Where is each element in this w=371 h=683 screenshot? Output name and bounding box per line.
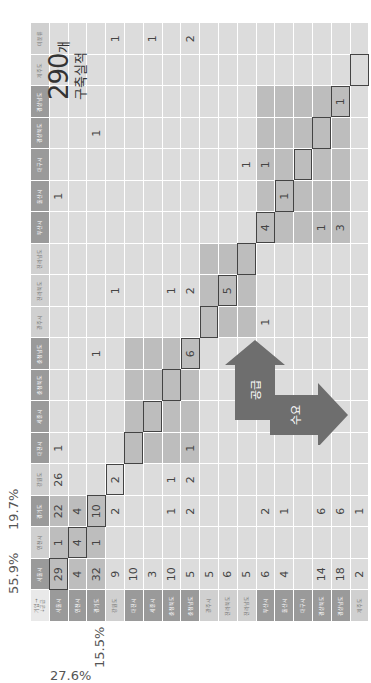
matrix-cell [181,527,200,559]
matrix-cell [350,275,369,307]
matrix-cell [350,212,369,244]
matrix-cell [162,370,181,402]
matrix-cell [87,275,106,307]
matrix-cell [331,527,350,559]
matrix-cell: 4 [68,559,87,591]
matrix-cell [143,275,162,307]
table-row: 충청북도10111 [162,23,181,622]
matrix-cell: 1 [49,433,68,465]
matrix-cell [200,212,219,244]
table-row: 부산시62141 [256,23,275,622]
matrix-cell: 1 [106,23,125,55]
matrix-cell [275,464,294,496]
matrix-cell [312,338,331,370]
matrix-cell: 6 [256,559,275,591]
table-row: 대전시10 [124,23,143,622]
matrix-cell [87,86,106,118]
matrix-cell [106,181,125,213]
table-row: 강원도92211 [106,23,125,622]
matrix-cell [143,370,162,402]
matrix-cell [143,401,162,433]
table-row: 전라남도51 [237,23,256,622]
matrix-cell [162,527,181,559]
matrix-cell [162,23,181,55]
matrix-cell [200,118,219,150]
matrix-cell [143,433,162,465]
matrix-cell [200,433,219,465]
demand-header-6: 충청북도 [31,370,50,402]
matrix-cell: 1 [87,527,106,559]
matrix-cell [162,86,181,118]
matrix-cell [237,55,256,87]
matrix-cell [350,149,369,181]
corner-line-2: ↓공급 [40,591,46,622]
matrix-cell [200,464,219,496]
matrix-cell [350,370,369,402]
supply-header-10: 전라남도 [237,590,256,622]
matrix-cell [218,433,237,465]
matrix-cell [200,181,219,213]
matrix-cell [49,149,68,181]
matrix-cell [68,275,87,307]
matrix-cell: 1 [237,149,256,181]
matrix-cell [49,275,68,307]
demand-header-9: 전라북도 [31,275,50,307]
supply-header-4: 대전시 [124,590,143,622]
matrix-cell [237,464,256,496]
matrix-cell [106,212,125,244]
matrix-cell [237,212,256,244]
matrix-cell [312,527,331,559]
supply-header-7: 충청남도 [181,590,200,622]
matrix-cell [294,86,313,118]
matrix-cell [294,212,313,244]
header-row: 기업→↓공급서울시인천시경기도강원도대전시세종시충청북도충청남도광주시전라북도전… [31,23,50,622]
matrix-cell [218,181,237,213]
matrix-cell [143,55,162,87]
matrix-cell [331,307,350,339]
matrix-cell [331,464,350,496]
matrix-cell [143,464,162,496]
matrix-cell [106,370,125,402]
table-row: 경상북도1461 [312,23,331,622]
matrix-cell [350,527,369,559]
supply-header-11: 부산시 [256,590,275,622]
matrix-cell [218,23,237,55]
matrix-cell [275,55,294,87]
matrix-cell [68,212,87,244]
matrix-cell [181,181,200,213]
matrix-cell [124,464,143,496]
matrix-cell [312,86,331,118]
matrix-cell [87,307,106,339]
demand-header-2: 경기도 [31,496,50,528]
matrix-cell [181,244,200,276]
table-row: 인천시444 [68,23,87,622]
matrix-cell [218,86,237,118]
matrix-cell [256,244,275,276]
matrix-cell [106,338,125,370]
table-row: 경기도3211011 [87,23,106,622]
matrix-cell [87,23,106,55]
supply-header-5: 세종시 [143,590,162,622]
matrix-cell [294,118,313,150]
matrix-cell [331,275,350,307]
matrix-cell: 1 [331,86,350,118]
total-label: 구축실적 [70,41,89,100]
demand-header-11: 부산시 [31,212,50,244]
matrix-cell [237,244,256,276]
demand-header-8: 광주시 [31,307,50,339]
demand-header-12: 울산시 [31,181,50,213]
matrix-cell: 18 [331,559,350,591]
matrix-cell [312,23,331,55]
matrix-cell [87,244,106,276]
matrix-cell [294,23,313,55]
arrow-down-icon [270,383,348,445]
matrix-cell [312,55,331,87]
matrix-cell [49,338,68,370]
matrix-cell [68,118,87,150]
matrix-cell [68,307,87,339]
matrix-cell [124,401,143,433]
matrix-cell [331,181,350,213]
matrix-cell [162,307,181,339]
matrix-cell [275,275,294,307]
matrix-cell [312,149,331,181]
